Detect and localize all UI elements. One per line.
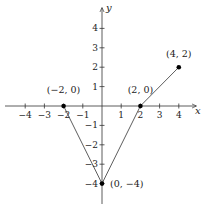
y-tick-label: −3 xyxy=(85,159,99,169)
y-tick-label: 3 xyxy=(92,43,98,53)
data-point xyxy=(100,181,105,186)
y-tick-label: −2 xyxy=(85,140,98,150)
x-tick-label: 1 xyxy=(118,110,124,120)
y-tick-label: 1 xyxy=(92,82,98,92)
point-label: (2, 0) xyxy=(128,84,154,95)
x-tick-label: −3 xyxy=(38,110,52,120)
y-tick-label: 2 xyxy=(92,62,98,72)
data-point xyxy=(177,65,182,70)
data-point xyxy=(138,104,143,109)
y-tick-label: −4 xyxy=(85,179,99,189)
data-point xyxy=(61,104,66,109)
point-label: (−2, 0) xyxy=(47,84,81,95)
x-tick-label: 4 xyxy=(176,110,182,120)
x-tick-label: −4 xyxy=(19,110,33,120)
point-label: (0, −4) xyxy=(110,178,144,189)
x-tick-label: −1 xyxy=(76,110,89,120)
data-line xyxy=(64,67,179,183)
x-axis-label: x xyxy=(195,105,201,116)
y-tick-label: −1 xyxy=(85,120,98,130)
x-tick-label: 3 xyxy=(157,110,163,120)
point-label: (4, 2) xyxy=(166,48,192,59)
y-tick-label: 4 xyxy=(92,23,98,33)
y-axis-label: y xyxy=(105,2,112,13)
x-tick-label: 2 xyxy=(138,110,144,120)
coordinate-plane: x y −4−3−2−11234−4−3−2−11234 (−2, 0)(2, … xyxy=(0,0,202,204)
